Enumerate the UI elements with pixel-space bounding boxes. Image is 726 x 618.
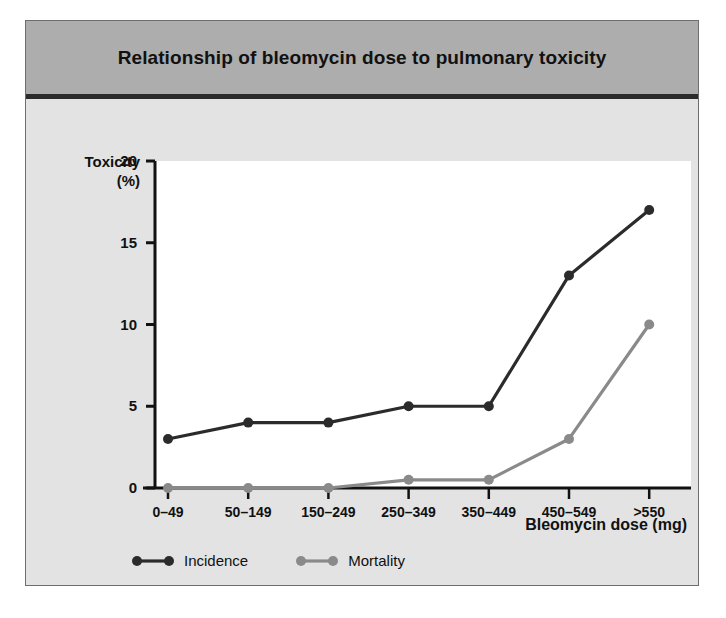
data-point-incidence — [564, 270, 574, 280]
data-point-mortality — [484, 475, 494, 485]
legend-dot-left — [132, 556, 142, 566]
figure-card: Relationship of bleomycin dose to pulmon… — [25, 20, 699, 586]
legend-item: Mortality — [294, 552, 405, 569]
legend-label: Mortality — [348, 552, 405, 569]
data-point-mortality — [564, 434, 574, 444]
data-point-incidence — [323, 418, 333, 428]
data-point-mortality — [644, 320, 654, 330]
legend-item: Incidence — [130, 552, 248, 569]
data-point-mortality — [404, 475, 414, 485]
data-point-incidence — [644, 205, 654, 215]
legend-marker-icon — [130, 554, 176, 568]
data-point-mortality — [243, 483, 253, 493]
data-point-mortality — [163, 483, 173, 493]
x-axis-title: Bleomycin dose (mg) — [525, 516, 687, 534]
data-point-mortality — [323, 483, 333, 493]
chart-legend: IncidenceMortality — [130, 552, 405, 569]
axes-group — [143, 161, 691, 499]
data-point-incidence — [243, 418, 253, 428]
data-point-incidence — [484, 401, 494, 411]
page-title: Relationship of bleomycin dose to pulmon… — [118, 47, 607, 69]
data-point-incidence — [404, 401, 414, 411]
data-point-incidence — [163, 434, 173, 444]
legend-label: Incidence — [184, 552, 248, 569]
legend-dot-left — [296, 556, 306, 566]
legend-dot-right — [164, 556, 174, 566]
series-group — [163, 205, 654, 493]
plot-svg — [26, 104, 700, 587]
plot-region: Toxicity (%) 05101520 0–4950–149150–2492… — [26, 104, 700, 587]
legend-marker-icon — [294, 554, 340, 568]
legend-dot-right — [328, 556, 338, 566]
chart-title-banner: Relationship of bleomycin dose to pulmon… — [26, 21, 698, 99]
